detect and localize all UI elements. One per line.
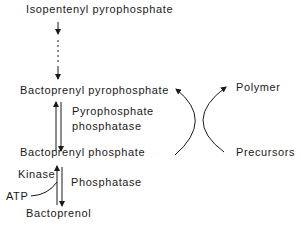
- enzyme-pyrophosphate-label: Pyrophosphate: [72, 105, 154, 118]
- node-bactoprenyl-phosphate: Bactoprenyl phosphate: [20, 146, 145, 159]
- enzyme-phosphatase-label: phosphatase: [72, 120, 142, 133]
- node-precursors: Precursors: [236, 146, 295, 159]
- node-bactoprenol: Bactoprenol: [26, 207, 91, 220]
- bactoprenol-cycle-diagram: Isopentenyl pyrophosphate Bactoprenyl py…: [0, 0, 301, 227]
- enzyme-phosphatase-2-label: Phosphatase: [71, 176, 142, 189]
- node-polymer: Polymer: [236, 81, 281, 94]
- reversible-arrow-pp-p: [56, 102, 61, 151]
- node-isopentenyl-pyrophosphate: Isopentenyl pyrophosphate: [26, 3, 173, 16]
- enzyme-kinase-label: Kinase: [18, 168, 55, 181]
- crossing-arcs: [175, 87, 226, 155]
- node-bactoprenyl-pyrophosphate: Bactoprenyl pyrophosphate: [20, 84, 169, 97]
- cofactor-atp: ATP: [6, 190, 28, 203]
